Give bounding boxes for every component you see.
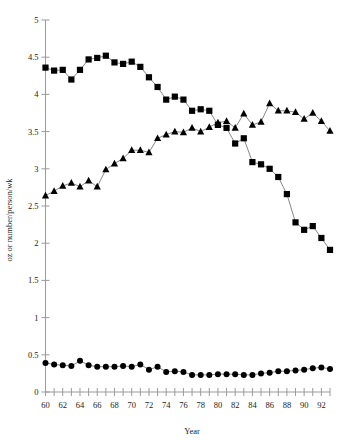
x-tick-label: 80	[214, 400, 223, 410]
x-tick-label: 60	[41, 400, 50, 410]
data-point-triangles	[283, 107, 290, 114]
data-point-squares	[292, 219, 298, 225]
y-tick-label: 4	[34, 89, 39, 99]
data-point-circles	[60, 362, 66, 368]
data-point-circles	[68, 363, 74, 369]
y-tick-label: 0.5	[28, 350, 39, 360]
data-point-circles	[224, 371, 230, 377]
data-point-triangles	[206, 123, 213, 130]
data-point-squares	[318, 235, 324, 241]
data-point-squares	[103, 53, 109, 59]
data-point-circles	[155, 364, 161, 370]
y-tick-label: 0	[34, 387, 38, 397]
x-tick-label: 76	[179, 400, 188, 410]
data-point-triangles	[51, 187, 58, 194]
chart-container: 00.511.522.533.544.55 606264666870727476…	[0, 0, 341, 440]
data-point-circles	[284, 368, 290, 374]
data-point-triangles	[301, 115, 308, 122]
data-point-circles	[215, 371, 221, 377]
data-point-squares	[241, 135, 247, 141]
data-point-circles	[198, 372, 204, 378]
data-point-circles	[241, 372, 247, 378]
data-point-squares	[154, 84, 160, 90]
data-point-squares	[94, 55, 100, 61]
y-tick-label: 1.5	[28, 275, 39, 285]
x-tick-label: 70	[127, 400, 136, 410]
data-point-circles	[310, 365, 316, 371]
data-point-circles	[249, 372, 255, 378]
data-point-triangles	[137, 146, 144, 153]
x-tick-label: 92	[317, 400, 326, 410]
x-tick-label: 74	[162, 400, 171, 410]
data-point-squares	[111, 59, 117, 65]
data-point-circles	[86, 362, 92, 368]
data-point-triangles	[275, 107, 282, 114]
data-point-circles	[301, 367, 307, 373]
line-chart: 00.511.522.533.544.55 606264666870727476…	[0, 0, 341, 440]
y-tick-label: 4.5	[28, 52, 39, 62]
data-point-squares	[180, 97, 186, 103]
data-point-circles	[163, 369, 169, 375]
data-point-circles	[275, 368, 281, 374]
data-point-triangles	[76, 183, 83, 190]
data-point-triangles	[102, 166, 109, 173]
y-axis-title: oz or number/person/wk	[4, 178, 14, 262]
data-point-squares	[120, 61, 126, 67]
data-point-triangles	[188, 124, 195, 131]
x-tick-label: 82	[231, 400, 240, 410]
data-point-squares	[68, 76, 74, 82]
x-tick-label: 90	[300, 400, 309, 410]
x-tick-label: 86	[265, 400, 274, 410]
data-point-squares	[198, 106, 204, 112]
x-tick-label: 72	[145, 400, 154, 410]
data-point-squares	[163, 97, 169, 103]
data-point-squares	[249, 159, 255, 165]
data-point-circles	[129, 364, 135, 370]
data-point-squares	[206, 108, 212, 114]
data-point-circles	[146, 367, 152, 373]
data-point-squares	[137, 64, 143, 70]
data-point-triangles	[171, 128, 178, 135]
x-tick-label: 64	[76, 400, 85, 410]
data-point-squares	[284, 191, 290, 197]
data-point-triangles	[240, 110, 247, 117]
data-point-squares	[146, 74, 152, 80]
data-point-circles	[77, 358, 83, 364]
data-point-triangles	[94, 183, 101, 190]
data-point-triangles	[120, 154, 127, 161]
data-point-circles	[172, 368, 178, 374]
data-point-squares	[232, 140, 238, 146]
x-tick-label: 62	[58, 400, 67, 410]
data-point-triangles	[128, 146, 135, 153]
data-point-squares	[77, 67, 83, 73]
y-tick-label: 3	[34, 164, 38, 174]
data-point-squares	[189, 108, 195, 114]
x-axis: 6062646668707274767880828486889092	[41, 388, 330, 410]
y-tick-label: 3.5	[28, 127, 39, 137]
data-point-triangles	[154, 134, 161, 141]
data-point-squares	[42, 65, 48, 71]
data-point-triangles	[257, 118, 264, 125]
data-point-squares	[86, 56, 92, 62]
y-axis: 00.511.522.533.544.55	[28, 15, 50, 397]
data-point-squares	[310, 223, 316, 229]
data-point-squares	[275, 174, 281, 180]
data-point-squares	[327, 247, 333, 253]
series-line-squares	[46, 56, 331, 250]
data-point-circles	[232, 371, 238, 377]
x-axis-title: Year	[184, 426, 200, 436]
y-tick-label: 5	[34, 15, 38, 25]
y-tick-label: 1	[34, 313, 38, 323]
data-point-squares	[223, 125, 229, 131]
data-point-circles	[111, 364, 117, 370]
data-point-circles	[180, 369, 186, 375]
data-point-circles	[327, 366, 333, 372]
x-tick-label: 66	[93, 400, 102, 410]
data-point-squares	[258, 161, 264, 167]
x-tick-label: 88	[283, 400, 292, 410]
data-point-triangles	[42, 192, 49, 199]
x-tick-label: 68	[110, 400, 119, 410]
data-point-circles	[94, 364, 100, 370]
x-tick-label: 84	[248, 400, 257, 410]
data-point-triangles	[232, 124, 239, 131]
